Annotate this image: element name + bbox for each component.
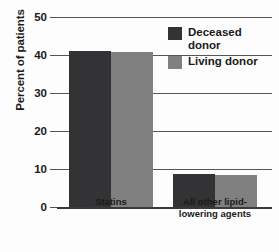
legend-swatch-living-donor [168,56,182,69]
y-tick-label-20: 20 [34,125,47,137]
y-tick-label-10: 10 [34,163,47,175]
y-tick-mark-40 [50,55,57,56]
y-tick-label-40: 40 [34,49,47,61]
y-axis-title: Percent of patients [14,0,30,120]
x-axis-label-2: All other lipid- lowering agents [163,196,267,219]
legend-item-living-donor: Living donor [168,55,258,69]
y-tick-mark-30 [50,93,57,94]
y-tick-label-0: 0 [41,201,47,213]
y-tick-mark-10 [50,169,57,170]
gridline-50 [57,17,272,18]
legend-label-living-donor: Living donor [188,55,258,68]
y-tick-label-30: 30 [34,87,47,99]
y-tick-mark-50 [50,17,57,18]
y-tick-mark-0 [50,207,57,208]
bar-statins-living-donor [111,52,153,207]
y-tick-label-50: 50 [34,11,47,23]
legend-swatch-deceased-donor [168,27,182,40]
chart-legend: Deceased donor Living donor [168,26,258,72]
bar-chart: Percent of patients 01020304050 Deceased… [0,0,279,252]
legend-label-deceased-donor: Deceased donor [188,26,242,52]
x-axis-label-1: Statins [69,196,153,208]
legend-item-deceased-donor: Deceased donor [168,26,258,52]
bar-statins-deceased-donor [69,51,111,207]
y-tick-mark-20 [50,131,57,132]
